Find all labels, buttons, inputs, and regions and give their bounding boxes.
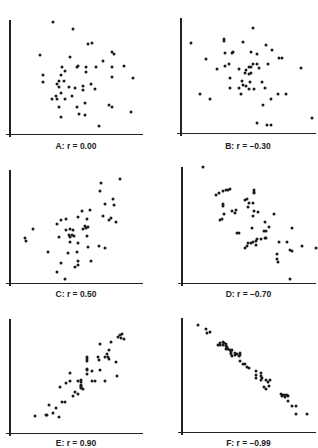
- data-point: [238, 68, 241, 71]
- data-point: [243, 71, 246, 74]
- data-point: [104, 247, 107, 250]
- data-point: [108, 219, 111, 222]
- data-point: [93, 380, 96, 383]
- data-point: [242, 40, 245, 43]
- y-axis: [9, 170, 11, 286]
- panel-label-d: D: r = –0.70: [181, 289, 316, 299]
- data-point: [60, 92, 63, 95]
- data-point: [216, 68, 219, 71]
- data-point: [224, 347, 227, 350]
- scatter-plot-b: [180, 18, 316, 134]
- data-point: [189, 42, 192, 45]
- data-point: [229, 77, 232, 80]
- data-point: [283, 396, 286, 399]
- data-point: [251, 27, 254, 30]
- data-point: [263, 221, 266, 224]
- data-point: [252, 201, 255, 204]
- data-point: [83, 101, 86, 104]
- data-point: [69, 236, 72, 239]
- data-point: [93, 87, 96, 90]
- data-point: [65, 218, 68, 221]
- data-point: [99, 342, 102, 345]
- data-point: [83, 113, 86, 116]
- data-point: [254, 239, 257, 242]
- data-point: [249, 241, 252, 244]
- data-point: [56, 98, 59, 101]
- data-point: [86, 218, 89, 221]
- data-point: [97, 245, 100, 248]
- y-axis: [181, 318, 183, 435]
- data-point: [208, 330, 211, 333]
- data-point: [267, 384, 270, 387]
- data-point: [197, 323, 200, 326]
- data-point: [131, 76, 134, 79]
- data-point: [112, 198, 115, 201]
- data-point: [110, 106, 113, 109]
- data-point: [69, 56, 72, 59]
- data-point: [69, 372, 72, 375]
- data-point: [219, 218, 222, 221]
- data-point: [233, 354, 236, 357]
- data-point: [75, 250, 78, 253]
- data-point: [95, 66, 98, 69]
- data-point: [280, 56, 283, 59]
- data-point: [270, 124, 273, 127]
- x-axis: [178, 432, 316, 434]
- data-point: [113, 203, 116, 206]
- data-point: [82, 84, 85, 87]
- data-point: [44, 414, 47, 417]
- data-point: [248, 201, 251, 204]
- data-point: [265, 230, 268, 233]
- data-point: [295, 413, 298, 416]
- data-point: [99, 190, 102, 193]
- data-point: [86, 373, 89, 376]
- data-point: [82, 228, 85, 231]
- data-point: [73, 235, 76, 238]
- data-point: [264, 44, 267, 47]
- data-point: [291, 405, 294, 408]
- data-point: [101, 214, 104, 217]
- data-point: [259, 379, 262, 382]
- data-point: [218, 192, 221, 195]
- data-point: [250, 226, 253, 229]
- data-point: [315, 246, 318, 249]
- data-point: [255, 53, 258, 56]
- data-point: [263, 237, 266, 240]
- data-point: [65, 382, 68, 385]
- data-point: [54, 407, 57, 410]
- data-point: [77, 264, 80, 267]
- data-point: [64, 400, 67, 403]
- data-point: [209, 97, 212, 100]
- data-point: [252, 240, 255, 243]
- data-point: [262, 103, 265, 106]
- data-point: [286, 240, 289, 243]
- data-point: [82, 388, 85, 391]
- data-point: [108, 348, 111, 351]
- scatter-plot-f: [181, 318, 316, 433]
- scatter-plot-d: [181, 167, 316, 284]
- y-axis: [9, 319, 11, 436]
- data-point: [71, 394, 74, 397]
- data-point: [104, 202, 107, 205]
- data-point: [60, 219, 63, 222]
- data-point: [239, 93, 242, 96]
- data-point: [90, 259, 93, 262]
- data-point: [86, 359, 89, 362]
- data-point: [110, 75, 113, 78]
- data-point: [31, 228, 34, 231]
- data-point: [57, 236, 60, 239]
- data-point: [253, 209, 256, 212]
- scatter-plot-a: [9, 20, 143, 135]
- data-point: [77, 216, 80, 219]
- data-point: [255, 62, 258, 65]
- data-point: [69, 380, 72, 383]
- data-point: [224, 189, 227, 192]
- data-point: [86, 368, 89, 371]
- data-point: [311, 117, 314, 120]
- data-point: [56, 270, 59, 273]
- data-point: [198, 93, 201, 96]
- data-point: [91, 369, 94, 372]
- panel-a: A: r = 0.00: [9, 20, 143, 154]
- data-point: [47, 250, 50, 253]
- data-point: [223, 64, 226, 67]
